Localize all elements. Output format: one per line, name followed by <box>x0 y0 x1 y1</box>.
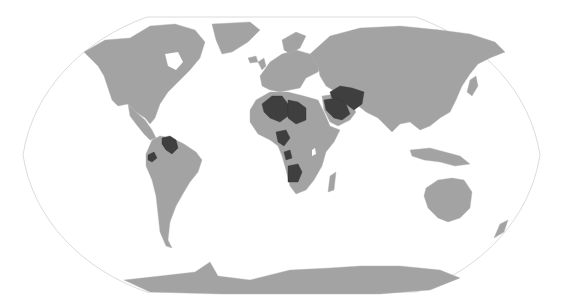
world-map <box>0 0 563 307</box>
